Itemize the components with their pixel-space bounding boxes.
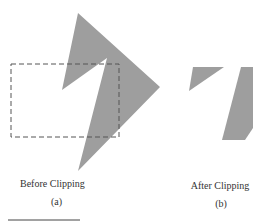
original-polygon xyxy=(62,13,160,171)
label-a: (a) xyxy=(51,196,59,207)
caption-after: After Clipping xyxy=(184,180,256,191)
clipped-fragment-right xyxy=(222,67,253,140)
label-b: (b) xyxy=(213,198,229,209)
caption-before: Before Clipping xyxy=(20,178,82,189)
clipped-fragment-left xyxy=(189,67,224,91)
